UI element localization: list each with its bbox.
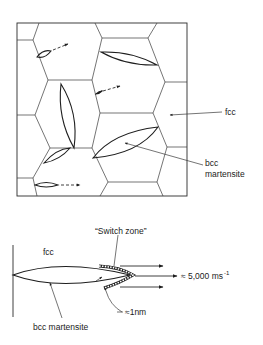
plate-growth-figure: fcc “Switch zone” ≈ 5,000 ms-1 ≈1nm bcc …	[13, 226, 230, 332]
plate-small-diagonal	[44, 148, 70, 163]
label-martensite: martensite	[205, 169, 245, 179]
growth-arrow-icon	[53, 44, 68, 50]
switch-zone-leader	[114, 235, 118, 266]
thickness-leader	[106, 291, 122, 312]
label-bcc: bcc	[205, 158, 219, 168]
bcc-martensite-pointer-arrow-icon	[50, 283, 62, 318]
grain-structure-figure: fcc bcc martensite	[17, 23, 245, 196]
growth-arrow-icon	[103, 86, 120, 91]
martensite-plates	[35, 44, 158, 187]
label-bcc-martensite-bottom: bcc martensite	[33, 322, 89, 332]
label-fcc-bottom: fcc	[43, 247, 55, 257]
label-switch-zone: “Switch zone”	[95, 226, 147, 236]
label-velocity: ≈ 5,000 ms-1	[181, 270, 230, 281]
plate-small-bottom	[35, 183, 58, 188]
martensite-diagram: fcc bcc martensite fcc “Switch zone” ≈ 5…	[0, 0, 263, 345]
grain-boundaries	[17, 23, 187, 196]
plate-top-right	[101, 52, 157, 65]
label-fcc-top: fcc	[225, 107, 237, 117]
plate-vertical	[60, 84, 75, 148]
bcc-pointer-arrow-icon	[125, 143, 203, 165]
plate-large-diagonal	[93, 127, 158, 158]
fcc-pointer-arrow-icon	[170, 112, 222, 115]
label-thickness: ≈1nm	[125, 307, 146, 317]
